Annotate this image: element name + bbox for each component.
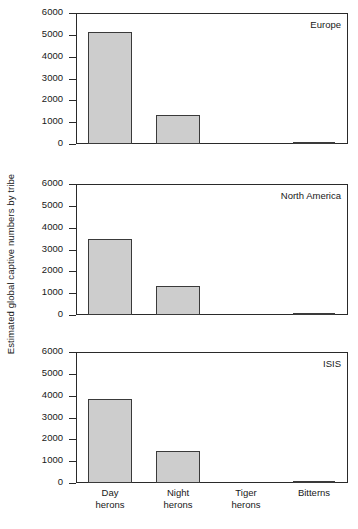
y-tick-label: 2000 bbox=[42, 264, 63, 275]
y-tick-label: 0 bbox=[58, 137, 63, 148]
y-tick-mark bbox=[69, 374, 76, 375]
x-label-line2: herons bbox=[212, 499, 280, 511]
y-tick-mark bbox=[69, 250, 76, 251]
bar-isis-day-herons bbox=[88, 399, 132, 483]
y-tick-0-panel-isis: 0 bbox=[0, 483, 76, 484]
bar-isis-bitterns bbox=[293, 481, 335, 483]
y-tick-label: 2000 bbox=[42, 432, 63, 443]
x-label-day-herons: Day herons bbox=[76, 487, 144, 510]
bars-europe bbox=[76, 13, 348, 144]
y-tick-mark bbox=[69, 57, 76, 58]
y-tick-0-panel-europe: 0 bbox=[0, 144, 76, 145]
y-tick-mark bbox=[69, 271, 76, 272]
y-tick-mark bbox=[69, 418, 76, 419]
bar-europe-night-herons bbox=[156, 115, 200, 144]
y-tick-mark bbox=[69, 483, 76, 484]
y-tick-mark bbox=[69, 122, 76, 123]
y-tick-0-panel-north-america: 0 bbox=[0, 315, 76, 316]
x-label-bitterns: Bitterns bbox=[280, 487, 348, 499]
y-tick-6000-panel-isis: 6000 bbox=[0, 352, 76, 353]
y-axis-title: Estimated global captive numbers by trib… bbox=[0, 144, 22, 384]
y-tick-mark bbox=[69, 228, 76, 229]
y-tick-3000-panel-europe: 3000 bbox=[0, 79, 76, 80]
x-label-tiger-herons: Tiger herons bbox=[212, 487, 280, 510]
y-tick-1000-panel-isis: 1000 bbox=[0, 461, 76, 462]
y-tick-5000-panel-europe: 5000 bbox=[0, 35, 76, 36]
y-tick-mark bbox=[69, 461, 76, 462]
y-tick-label: 3000 bbox=[42, 72, 63, 83]
y-tick-mark bbox=[69, 315, 76, 316]
bars-north-america bbox=[76, 184, 348, 315]
y-tick-label: 0 bbox=[58, 476, 63, 487]
y-tick-2000-panel-isis: 2000 bbox=[0, 439, 76, 440]
x-label-line1: Day bbox=[102, 487, 119, 498]
y-tick-5000-panel-isis: 5000 bbox=[0, 374, 76, 375]
x-label-line2: herons bbox=[144, 499, 212, 511]
x-label-night-herons: Night herons bbox=[144, 487, 212, 510]
y-tick-label: 4000 bbox=[42, 221, 63, 232]
bars-isis bbox=[76, 352, 348, 483]
y-tick-mark bbox=[69, 206, 76, 207]
y-tick-label: 3000 bbox=[42, 243, 63, 254]
y-tick-label: 5000 bbox=[42, 367, 63, 378]
y-tick-label: 6000 bbox=[42, 345, 63, 356]
bar-europe-day-herons bbox=[88, 32, 132, 144]
y-tick-mark bbox=[69, 144, 76, 145]
y-tick-6000-panel-europe: 6000 bbox=[0, 13, 76, 14]
y-tick-1000-panel-europe: 1000 bbox=[0, 122, 76, 123]
x-label-line1: Bitterns bbox=[298, 487, 330, 498]
y-tick-mark bbox=[69, 100, 76, 101]
y-tick-label: 6000 bbox=[42, 177, 63, 188]
y-tick-label: 4000 bbox=[42, 50, 63, 61]
y-tick-4000-panel-europe: 4000 bbox=[0, 57, 76, 58]
x-axis-category-labels: Day herons Night herons Tiger herons Bit… bbox=[76, 487, 348, 519]
y-tick-mark bbox=[69, 13, 76, 14]
bar-north-america-bitterns bbox=[293, 313, 335, 315]
y-tick-2000-panel-europe: 2000 bbox=[0, 100, 76, 101]
y-tick-label: 5000 bbox=[42, 199, 63, 210]
x-label-line1: Night bbox=[167, 487, 189, 498]
y-tick-5000-panel-north-america: 5000 bbox=[0, 206, 76, 207]
y-tick-6000-panel-north-america: 6000 bbox=[0, 184, 76, 185]
bar-north-america-night-herons bbox=[156, 286, 200, 315]
y-tick-4000-panel-north-america: 4000 bbox=[0, 228, 76, 229]
bar-europe-bitterns bbox=[293, 142, 335, 144]
y-tick-label: 0 bbox=[58, 308, 63, 319]
y-tick-3000-panel-isis: 3000 bbox=[0, 418, 76, 419]
y-tick-4000-panel-isis: 4000 bbox=[0, 396, 76, 397]
y-tick-mark bbox=[69, 439, 76, 440]
y-tick-3000-panel-north-america: 3000 bbox=[0, 250, 76, 251]
y-tick-mark bbox=[69, 35, 76, 36]
y-tick-label: 6000 bbox=[42, 6, 63, 17]
y-tick-mark bbox=[69, 396, 76, 397]
y-tick-label: 1000 bbox=[42, 286, 63, 297]
y-tick-label: 2000 bbox=[42, 93, 63, 104]
y-tick-2000-panel-north-america: 2000 bbox=[0, 271, 76, 272]
bar-isis-night-herons bbox=[156, 451, 200, 483]
y-tick-label: 1000 bbox=[42, 115, 63, 126]
y-tick-label: 5000 bbox=[42, 28, 63, 39]
x-label-line1: Tiger bbox=[235, 487, 256, 498]
figure-bar-chart-captive-heron-numbers: Estimated global captive numbers by trib… bbox=[0, 0, 358, 529]
y-tick-mark bbox=[69, 79, 76, 80]
y-tick-label: 4000 bbox=[42, 389, 63, 400]
y-tick-1000-panel-north-america: 1000 bbox=[0, 293, 76, 294]
bar-north-america-day-herons bbox=[88, 239, 132, 315]
y-tick-mark bbox=[69, 293, 76, 294]
y-tick-mark bbox=[69, 184, 76, 185]
x-label-line2: herons bbox=[76, 499, 144, 511]
y-tick-mark bbox=[69, 352, 76, 353]
y-tick-label: 3000 bbox=[42, 411, 63, 422]
y-tick-label: 1000 bbox=[42, 454, 63, 465]
